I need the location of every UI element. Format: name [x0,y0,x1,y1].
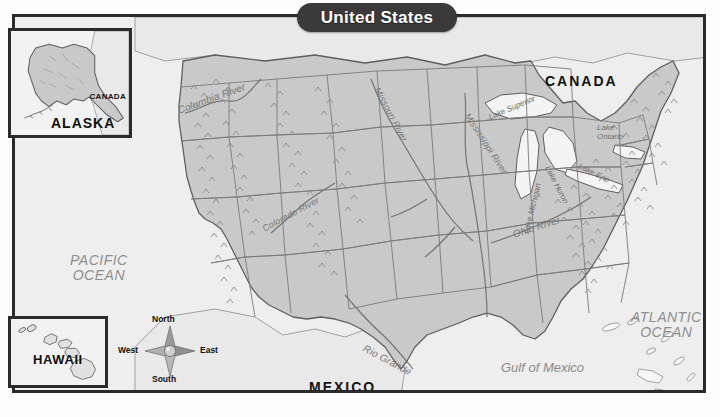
caribbean-islands [602,316,696,393]
inset-hawaii: HAWAII [8,316,108,388]
map-title-banner: United States [297,3,457,32]
compass-west-label: West [118,345,138,355]
compass-rose: North South West East [118,312,226,390]
compass-south-label: South [152,374,176,384]
hawaiian-islands [18,324,96,380]
map-screenshot: CANADA MEXICO PACIFIC OCEAN ATLANTIC OCE… [0,0,720,417]
inset-alaska: CANADA ALASKA [8,28,132,138]
compass-north-label: North [152,314,175,324]
compass-star [145,326,195,376]
page-title: United States [321,8,434,28]
alaska-graphic [11,31,129,135]
compass-east-label: East [200,345,218,355]
hawaii-graphic [11,319,105,385]
